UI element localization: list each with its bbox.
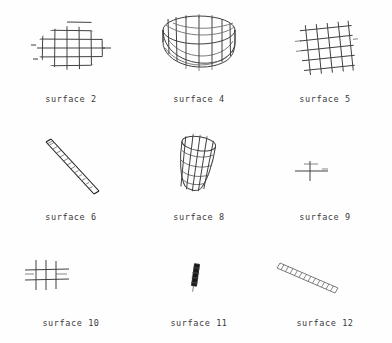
surface-6-drawing <box>12 128 130 206</box>
panel-surface-8: surface 8 <box>140 128 258 206</box>
caption-surface-9: surface 9 <box>266 212 384 222</box>
panel-surface-4: surface 4 <box>140 8 258 88</box>
panel-surface-9: surface 9 <box>266 128 384 206</box>
panel-surface-11: surface 11 <box>140 248 258 314</box>
caption-surface-10: surface 10 <box>12 318 130 328</box>
surface-gallery-figure: surface 2 <box>0 0 392 343</box>
surface-4-drawing <box>140 8 258 88</box>
surface-10-drawing <box>12 248 130 314</box>
panel-surface-6: surface 6 <box>12 128 130 206</box>
surface-8-drawing <box>140 128 258 206</box>
panel-surface-2: surface 2 <box>12 8 130 88</box>
caption-surface-6: surface 6 <box>12 212 130 222</box>
surface-2-drawing <box>12 8 130 88</box>
panel-surface-10: surface 10 <box>12 248 130 314</box>
caption-surface-11: surface 11 <box>140 318 258 328</box>
caption-surface-2: surface 2 <box>12 94 130 104</box>
panel-surface-5: surface 5 <box>266 8 384 88</box>
surface-5-drawing <box>266 8 384 88</box>
caption-surface-5: surface 5 <box>266 94 384 104</box>
caption-surface-12: surface 12 <box>266 318 384 328</box>
surface-11-drawing <box>140 248 258 314</box>
caption-surface-4: surface 4 <box>140 94 258 104</box>
surface-9-drawing <box>266 128 384 206</box>
caption-surface-8: surface 8 <box>140 212 258 222</box>
panel-surface-12: surface 12 <box>266 248 384 314</box>
surface-12-drawing <box>266 248 384 314</box>
